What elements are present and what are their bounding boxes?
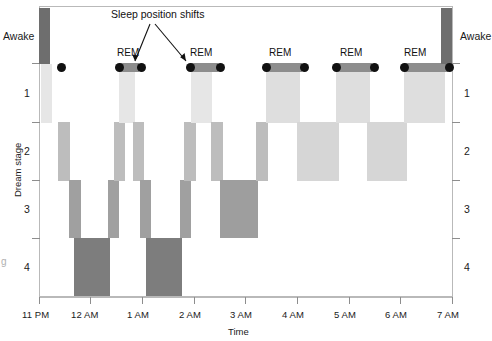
axis-right xyxy=(452,6,453,297)
segment-stage2-c2-up xyxy=(184,122,196,181)
left-edge-fragment: g xyxy=(1,256,7,267)
position-shift-dot xyxy=(370,63,379,72)
segment-stage1-c5-up xyxy=(404,72,445,123)
rem-label-5: REM xyxy=(404,48,426,58)
position-shift-dot xyxy=(400,63,409,72)
position-shift-dot xyxy=(137,63,146,72)
x-tick-8 xyxy=(452,297,453,304)
segment-stage3-c2 xyxy=(140,180,151,238)
y-tick-left-2 xyxy=(32,122,40,123)
y-label-left-3: 3 xyxy=(24,204,30,214)
segment-stage4-c2 xyxy=(146,238,182,296)
segment-stage3-c1-up xyxy=(108,180,119,238)
segment-stage1-c1 xyxy=(41,64,52,123)
segment-rem-5 xyxy=(404,63,448,72)
x-tick-0 xyxy=(39,297,40,304)
x-tick-3 xyxy=(194,297,195,304)
hypnogram-figure: Sleep position shifts xyxy=(0,0,492,341)
y-label-left-4: 4 xyxy=(24,262,30,272)
y-label-left-1: 1 xyxy=(24,88,30,98)
segment-stage3-c1 xyxy=(69,180,81,238)
segment-rem-3 xyxy=(266,63,302,72)
x-tick-2 xyxy=(142,297,143,304)
x-tick-label-2: 1 AM xyxy=(127,310,149,320)
y-tick-right-4 xyxy=(452,238,460,239)
y-axis-title: Dream stage xyxy=(13,143,23,197)
segment-stage1-c2-up xyxy=(191,72,212,123)
x-tick-1 xyxy=(90,297,91,304)
y-label-right-1: 1 xyxy=(464,88,470,98)
x-axis-title: Time xyxy=(228,327,249,337)
y-tick-right-2 xyxy=(452,122,460,123)
x-tick-7 xyxy=(400,297,401,304)
rem-label-1: REM xyxy=(117,48,139,58)
position-shift-dot xyxy=(445,63,454,72)
segment-stage2-c4 xyxy=(297,122,339,181)
y-label-left-2: 2 xyxy=(24,146,30,156)
rem-label-3: REM xyxy=(269,48,291,58)
y-label-right-3: 3 xyxy=(464,204,470,214)
y-label-right-awake: Awake xyxy=(460,31,491,41)
x-tick-label-6: 5 AM xyxy=(334,310,356,320)
x-tick-label-3: 2 AM xyxy=(179,310,201,320)
x-tick-label-0: 11 PM xyxy=(22,310,49,320)
x-tick-label-5: 4 AM xyxy=(282,310,304,320)
rem-label-4: REM xyxy=(340,48,362,58)
x-tick-4 xyxy=(245,297,246,304)
position-shift-dot xyxy=(332,63,341,72)
y-label-left-awake: Awake xyxy=(3,31,34,41)
axis-top xyxy=(39,6,453,7)
position-shift-dot xyxy=(186,63,195,72)
y-tick-left-3 xyxy=(32,180,40,181)
annotation-sleep-position-shifts: Sleep position shifts xyxy=(111,8,204,20)
x-tick-5 xyxy=(297,297,298,304)
x-tick-label-7: 6 AM xyxy=(385,310,407,320)
segment-stage2-c1 xyxy=(58,122,70,181)
x-tick-label-1: 12 AM xyxy=(71,310,98,320)
segment-stage2-c2 xyxy=(133,122,144,181)
rem-label-2: REM xyxy=(190,48,212,58)
segment-rem-4 xyxy=(336,63,372,72)
segment-stage1-c3-up xyxy=(266,72,300,123)
y-tick-left-4 xyxy=(32,238,40,239)
segment-stage2-c3 xyxy=(211,122,223,181)
segment-stage3-c2-up xyxy=(180,180,191,238)
y-label-right-4: 4 xyxy=(464,262,470,272)
segment-stage1-c1-up xyxy=(119,72,135,123)
position-shift-dot xyxy=(262,63,271,72)
segment-awake-start xyxy=(39,8,50,64)
segment-stage3-c3 xyxy=(220,180,258,238)
x-tick-label-4: 3 AM xyxy=(230,310,252,320)
position-shift-dot xyxy=(216,63,225,72)
segment-stage1-c4-up xyxy=(336,72,370,123)
segment-awake-end xyxy=(441,8,452,64)
segment-stage2-c3-up xyxy=(256,122,268,181)
y-tick-right-3 xyxy=(452,180,460,181)
segment-stage4-c1 xyxy=(74,238,110,296)
segment-stage2-c1-up xyxy=(114,122,125,181)
position-shift-dot xyxy=(57,63,66,72)
position-shift-dot xyxy=(115,63,124,72)
position-shift-dot xyxy=(300,63,309,72)
segment-stage2-c5 xyxy=(367,122,407,181)
x-tick-label-8: 7 AM xyxy=(437,310,459,320)
x-tick-6 xyxy=(349,297,350,304)
y-label-right-2: 2 xyxy=(464,146,470,156)
